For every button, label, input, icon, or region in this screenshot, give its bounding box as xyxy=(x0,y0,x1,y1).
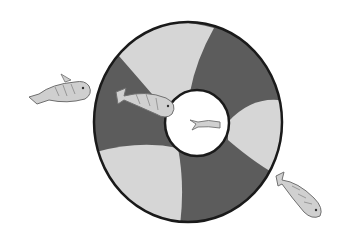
illustration xyxy=(0,0,346,243)
